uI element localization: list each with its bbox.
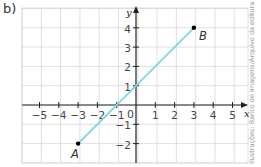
x-tick-label: 4 — [210, 109, 217, 121]
x-tick-label: 3 — [191, 109, 198, 121]
x-tick-label: −4 — [51, 109, 67, 121]
point-b — [192, 26, 196, 30]
x-tick-label: 2 — [171, 109, 178, 121]
point-a — [76, 141, 80, 145]
point-label: B — [199, 29, 207, 43]
y-tick-label: 2 — [124, 61, 131, 73]
point-label: A — [70, 147, 79, 161]
y-axis-label: y — [125, 7, 132, 18]
x-tick-label: 5 — [229, 109, 236, 121]
image-credit: Ilustrações: Banco de imagens/Arquivo da… — [248, 2, 256, 164]
y-tick-label: 4 — [124, 23, 131, 35]
y-tick-label: −2 — [116, 139, 131, 151]
y-tick-label: −1 — [116, 119, 131, 131]
x-tick-label: 1 — [152, 109, 159, 121]
x-tick-label: −3 — [70, 109, 85, 121]
coordinate-plane: −5−4−3−2−1012345−2−11234xyAB — [0, 0, 261, 167]
y-tick-label: 3 — [124, 42, 131, 54]
x-tick-label: −5 — [32, 109, 47, 121]
